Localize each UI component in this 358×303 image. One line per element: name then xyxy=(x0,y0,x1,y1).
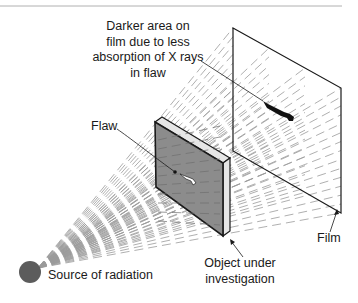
darker-area-line-2: film due to less xyxy=(88,35,208,51)
ray-line xyxy=(38,172,269,268)
ray-line xyxy=(38,213,341,268)
radiation-source-icon xyxy=(19,261,41,283)
ray-line xyxy=(38,163,269,268)
object-arrowhead-icon xyxy=(230,239,235,245)
film-plate xyxy=(233,28,341,213)
darker-area-line-3: absorption of X rays xyxy=(88,50,208,66)
object-label: Object under investigation xyxy=(200,256,280,287)
ray-line xyxy=(38,154,269,268)
film-label: Film xyxy=(317,231,341,247)
darker-area-label: Darker area on film due to less absorpti… xyxy=(88,19,208,81)
object-line-1: Object under xyxy=(200,256,280,272)
darker-area-line-4: in flaw xyxy=(88,66,208,82)
ray-line xyxy=(38,145,269,268)
flaw-label: Flaw xyxy=(91,119,117,135)
object-line-2: investigation xyxy=(200,272,280,288)
source-label: Source of radiation xyxy=(48,268,153,284)
radiography-diagram: Darker area on film due to less absorpti… xyxy=(0,0,358,303)
darker-area-line-1: Darker area on xyxy=(88,19,208,35)
